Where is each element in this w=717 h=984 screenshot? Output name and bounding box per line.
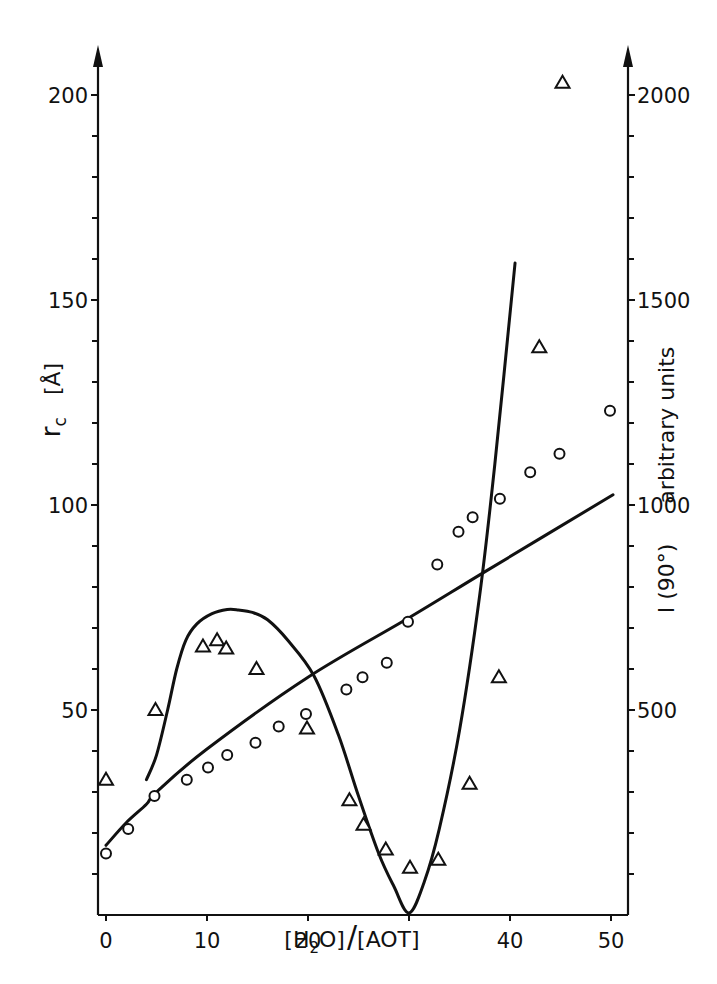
triangle-marker-icon [210,633,224,645]
circle-marker-icon [149,791,159,801]
triangle-marker-icon [196,639,210,651]
x-tick-label: 50 [598,929,625,953]
left-axis-arrow-icon [93,45,103,67]
svg-text:rc[Å]: rc[Å] [36,363,70,437]
triangle-marker-icon [532,340,546,352]
x-tick-label: 0 [99,929,112,953]
circle-marker-icon [453,527,463,537]
circle-marker-icon [495,494,505,504]
chart: 01020405050100150200500100015002000 [H2O… [0,0,717,984]
y-left-tick-label: 50 [61,699,88,723]
circle-marker-icon [182,775,192,785]
right-axis-label: I (90°)arbitrary units [654,347,679,614]
x-axis-label: [H2O]/[AOT] [284,919,419,957]
y-right-tick-label: 2000 [637,84,690,108]
x-tick-label: 10 [194,929,221,953]
triangle-marker-icon [342,793,356,805]
triangle-marker-icon [463,777,477,789]
triangle-marker-icon [300,721,314,733]
y-left-tick-label: 100 [48,494,88,518]
circle-marker-icon [301,709,311,719]
right-axis-arrow-icon [623,45,633,67]
circle-marker-icon [554,449,564,459]
circle-marker-icon [341,685,351,695]
triangle-marker-icon [249,662,263,674]
circle-marker-icon [203,762,213,772]
circle-marker-icon [403,617,413,627]
circle-marker-icon [605,406,615,416]
y-left-tick-label: 200 [48,84,88,108]
triangle-marker-icon [556,76,570,88]
axes [93,45,633,915]
triangle-marker-icon [148,703,162,715]
circle-marker-icon [250,738,260,748]
data-markers [99,76,615,873]
fit-curves [106,263,613,913]
circle-marker-icon [274,721,284,731]
triangle-marker-icon [492,670,506,682]
circle-marker-icon [222,750,232,760]
circle-marker-icon [468,512,478,522]
circle-marker-icon [432,559,442,569]
svg-text:I (90°)arbitrary units: I (90°)arbitrary units [654,347,679,614]
linear-fit-line [106,495,613,846]
y-right-tick-label: 500 [637,699,677,723]
circle-marker-icon [525,467,535,477]
triangle-marker-icon [99,773,113,785]
triangle-marker-icon [403,861,417,873]
circle-marker-icon [382,658,392,668]
y-left-tick-label: 150 [48,289,88,313]
triangle-marker-icon [379,842,393,854]
y-right-tick-label: 1500 [637,289,690,313]
left-axis-label: rc[Å] [36,363,70,437]
circle-marker-icon [101,849,111,859]
circle-marker-icon [358,672,368,682]
x-tick-label: 40 [497,929,524,953]
ticks: 01020405050100150200500100015002000 [48,84,691,953]
circle-marker-icon [123,824,133,834]
